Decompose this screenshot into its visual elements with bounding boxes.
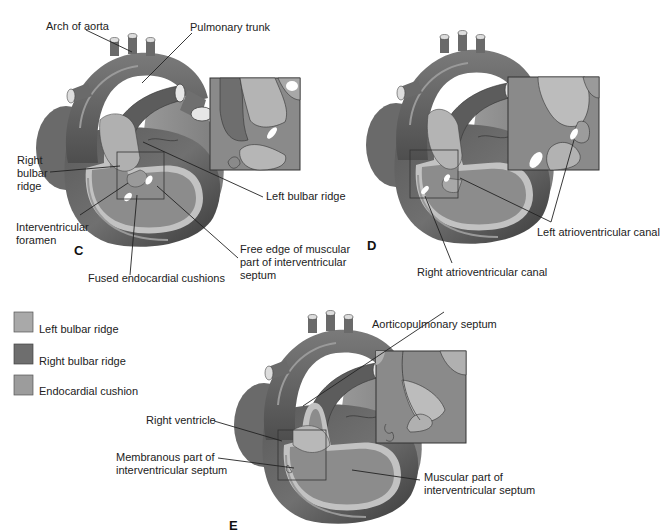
inset-d <box>508 77 599 170</box>
legend: Left bulbar ridge Right bulbar ridge End… <box>14 312 138 397</box>
label-muscular-2: interventricular septum <box>424 484 535 496</box>
label-left-av-canal: Left atrioventricular canal <box>537 226 660 238</box>
inset-e <box>376 351 466 443</box>
leader-arch-of-aorta <box>86 30 132 52</box>
label-free-edge-1: Free edge of muscular <box>240 243 350 255</box>
panel-letter-e: E <box>229 518 238 532</box>
label-membranous-1: Membranous part of <box>116 451 215 463</box>
label-interventricular-foramen-2: foramen <box>16 234 56 246</box>
legend-label-left-bulbar-ridge: Left bulbar ridge <box>39 323 119 335</box>
legend-label-right-bulbar-ridge: Right bulbar ridge <box>39 355 126 367</box>
label-membranous-2: interventricular septum <box>116 464 227 476</box>
label-interventricular-foramen-1: Interventricular <box>16 221 89 233</box>
panel-letter-d: D <box>367 238 376 253</box>
label-free-edge-3: septum <box>240 269 276 281</box>
label-free-edge-2: part of interventricular <box>240 256 347 268</box>
panel-d: Left atrioventricular canal Right atriov… <box>366 31 660 279</box>
legend-swatch-right-bulbar-ridge <box>14 344 33 364</box>
legend-label-endocardial-cushion: Endocardial cushion <box>39 385 138 397</box>
label-right-av-canal: Right atrioventricular canal <box>417 266 547 278</box>
label-left-bulbar-ridge: Left bulbar ridge <box>266 190 346 202</box>
panel-c: Arch of aorta Pulmonary trunk Right bulb… <box>16 20 350 284</box>
label-pulmonary-trunk: Pulmonary trunk <box>190 21 271 33</box>
label-right-bulbar-ridge-2: bulbar <box>17 167 48 179</box>
label-muscular-1: Muscular part of <box>424 471 504 483</box>
label-aorticopulmonary-septum: Aorticopulmonary septum <box>372 318 497 330</box>
label-right-bulbar-ridge-1: Right <box>17 154 43 166</box>
label-fused-cushions: Fused endocardial cushions <box>88 272 225 284</box>
panel-letter-c: C <box>74 243 84 258</box>
panel-e: Aorticopulmonary septum Right ventricle … <box>116 311 535 532</box>
label-right-ventricle: Right ventricle <box>146 414 216 426</box>
inset-c <box>210 78 300 170</box>
label-right-bulbar-ridge-3: ridge <box>17 180 41 192</box>
legend-swatch-endocardial-cushion <box>14 375 33 395</box>
legend-swatch-left-bulbar-ridge <box>14 312 33 332</box>
label-arch-of-aorta: Arch of aorta <box>46 20 110 32</box>
heart-septation-diagram: Arch of aorta Pulmonary trunk Right bulb… <box>0 0 661 532</box>
